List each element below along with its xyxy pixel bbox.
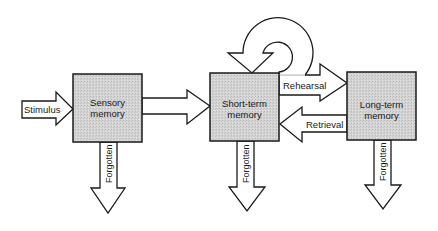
stimulus-arrow: Stimulus xyxy=(22,92,73,125)
retrieval-arrow: Retrieval xyxy=(280,107,347,142)
long-term-memory-box: Long-term memory xyxy=(347,72,416,140)
forgotten-arrow-short-term: Forgotten xyxy=(229,141,265,211)
long-term-memory-label-1: Long-term xyxy=(360,99,403,110)
sensory-memory-label-2: memory xyxy=(90,108,125,119)
forgotten-label-sensory: Forgotten xyxy=(104,144,114,183)
rehearsal-label: Rehearsal xyxy=(283,80,326,91)
sensory-to-short-term-arrow xyxy=(142,90,210,124)
memory-model-diagram: Stimulus Forgotten Forgotten Forgotten R… xyxy=(0,0,438,231)
forgotten-arrow-long-term: Forgotten xyxy=(365,140,401,209)
retrieval-label: Retrieval xyxy=(306,119,344,130)
forgotten-label-long-term: Forgotten xyxy=(378,142,388,181)
sensory-memory-label-1: Sensory xyxy=(90,97,125,108)
short-term-memory-label-2: memory xyxy=(227,109,262,120)
short-term-memory-label-1: Short-term xyxy=(222,98,267,109)
forgotten-arrow-sensory: Forgotten xyxy=(91,142,125,213)
stimulus-label: Stimulus xyxy=(24,104,61,115)
long-term-memory-label-2: memory xyxy=(364,110,399,121)
sensory-memory-box: Sensory memory xyxy=(73,74,142,142)
short-term-memory-box: Short-term memory xyxy=(210,73,279,141)
forgotten-label-short-term: Forgotten xyxy=(241,144,251,183)
